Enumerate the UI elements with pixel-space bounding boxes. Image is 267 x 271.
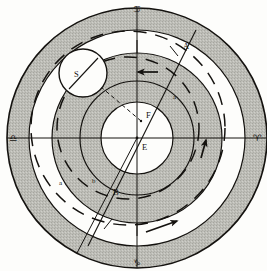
libra-glyph: ♎ (9, 133, 17, 143)
diagram-canvas: ♋ ♈ ♑ ♎ E F S A B a a b (0, 0, 267, 271)
epicycle-circle (59, 49, 107, 97)
label-E: E (142, 142, 147, 152)
label-A: A (183, 41, 190, 51)
aries-glyph: ♈ (253, 133, 262, 143)
capricorn-glyph: ♑ (133, 258, 141, 268)
label-S: S (74, 69, 79, 79)
label-B: B (113, 187, 119, 197)
cancer-glyph: ♋ (133, 4, 141, 14)
eccentric-point-F (140, 120, 142, 122)
center-point-E (136, 137, 139, 140)
orbit-diagram-figure: ♋ ♈ ♑ ♎ E F S A B a a b (0, 0, 267, 271)
label-F: F (146, 110, 151, 120)
label-b: b (92, 177, 96, 185)
